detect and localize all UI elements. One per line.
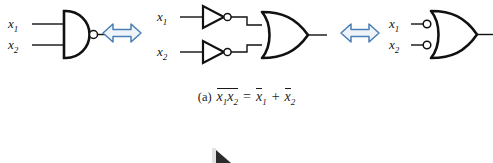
next-figure-partial-triangle bbox=[212, 148, 231, 163]
figure-canvas: x1 x2 x1 x2 x1 x2 (a)x1x2=x1+x2 bbox=[0, 0, 493, 163]
inverter-1-input-label: x1 bbox=[157, 10, 167, 27]
inverters-or-gate-stage bbox=[180, 6, 327, 63]
nand-gate-body bbox=[64, 11, 90, 58]
logic-diagram bbox=[0, 0, 493, 163]
equation-equals: = bbox=[243, 89, 251, 104]
equation-plus: + bbox=[272, 89, 280, 104]
negated-input-or-gate-stage bbox=[411, 11, 493, 58]
equivalence-arrow-2 bbox=[341, 24, 379, 42]
inverter-1-output-wire bbox=[231, 17, 262, 25]
nand-input-label-2: x2 bbox=[8, 38, 18, 55]
inverter-1-body bbox=[203, 6, 224, 28]
or-gate-body bbox=[262, 12, 308, 58]
figure-caption-equation: (a)x1x2=x1+x2 bbox=[0, 88, 493, 107]
nand-input-label-1: x1 bbox=[8, 17, 18, 34]
nand-output-bubble-icon bbox=[90, 31, 98, 39]
equation-left-side: x1x2 bbox=[217, 88, 238, 107]
neg-or-input-label-2: x2 bbox=[389, 38, 399, 55]
inverter-1-bubble-icon bbox=[224, 13, 231, 20]
neg-or-input-bubble-2-icon bbox=[423, 41, 431, 49]
neg-or-input-label-1: x1 bbox=[389, 17, 399, 34]
equivalence-arrow-1 bbox=[103, 24, 141, 42]
caption-label: (a) bbox=[198, 90, 212, 104]
neg-or-gate-body bbox=[431, 11, 477, 58]
nand-gate-stage bbox=[32, 11, 115, 58]
inverter-2-body bbox=[203, 41, 224, 63]
neg-or-input-bubble-1-icon bbox=[423, 20, 431, 28]
inverter-2-bubble-icon bbox=[224, 48, 231, 55]
inverter-2-input-label: x2 bbox=[157, 45, 167, 62]
inverter-2-output-wire bbox=[231, 45, 262, 52]
